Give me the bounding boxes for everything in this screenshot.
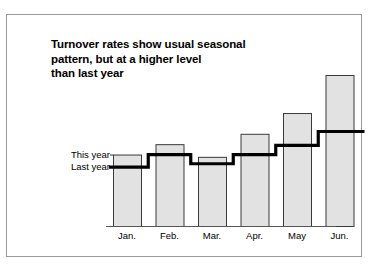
x-tick-label-jun: Jun. bbox=[319, 230, 361, 241]
bar-jun bbox=[326, 76, 354, 227]
x-tick-label-may: May bbox=[276, 230, 318, 241]
x-tick-label-mar: Mar. bbox=[191, 230, 233, 241]
legend-label-last-year: Last year bbox=[40, 161, 110, 172]
bar-feb bbox=[156, 145, 184, 227]
legend-label-this-year: This year bbox=[40, 149, 110, 160]
x-tick-label-jan: Jan. bbox=[106, 230, 148, 241]
bar-may bbox=[284, 114, 312, 227]
x-tick-label-apr: Apr. bbox=[234, 230, 276, 241]
chart-screenshot: Turnover rates show usual seasonal patte… bbox=[0, 0, 369, 272]
x-tick-label-feb: Feb. bbox=[149, 230, 191, 241]
bar-mar bbox=[199, 157, 227, 226]
bar-series-this-year bbox=[114, 76, 355, 227]
bar-apr bbox=[241, 134, 269, 226]
